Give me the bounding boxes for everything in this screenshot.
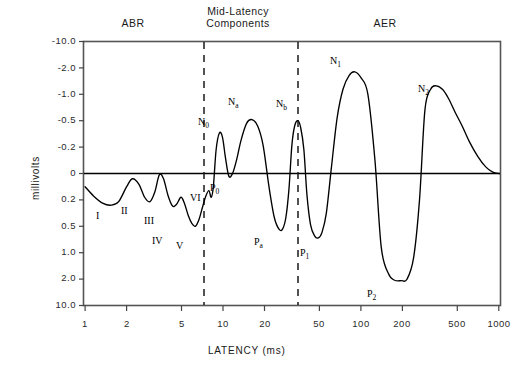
x-tick-label: 5 [162, 318, 202, 329]
y-tick-label: -0.2 [38, 141, 76, 152]
peak-label-I-text: I [96, 210, 99, 221]
peak-label-II: II [121, 205, 128, 216]
y-tick-label: 0 [38, 167, 76, 178]
plot-canvas [0, 0, 529, 371]
peak-label-P1: P1 [300, 247, 309, 261]
peak-label-P2-sub: 2 [373, 293, 377, 302]
y-tick-label: 10.0 [38, 299, 76, 310]
peak-label-Nb: Nb [276, 98, 287, 112]
y-tick-label: 0.2 [38, 193, 76, 204]
y-tick-label: 2.0 [38, 272, 76, 283]
x-tick-label: 50 [299, 318, 339, 329]
peak-label-P0: P0 [210, 182, 219, 196]
x-tick-label: 500 [437, 318, 477, 329]
peak-label-Na-sub: a [235, 101, 238, 110]
peak-label-V: V [176, 240, 183, 251]
y-tick-label: -1.0 [38, 88, 76, 99]
peak-label-IV-text: IV [152, 235, 163, 246]
peak-label-III-text: III [144, 215, 154, 226]
x-tick-label: 200 [382, 318, 422, 329]
peak-label-N1: N1 [330, 55, 341, 69]
peak-label-V-text: V [176, 240, 183, 251]
x-tick-marks [85, 306, 499, 312]
peak-label-VI-text: VI [190, 192, 201, 203]
peak-label-Pa-sub: a [260, 241, 263, 250]
x-tick-label: 1 [65, 318, 105, 329]
x-tick-label: 2 [107, 318, 147, 329]
evoked-potential-waveform [85, 72, 499, 282]
x-tick-label: 100 [341, 318, 381, 329]
peak-label-Na: Na [228, 96, 239, 110]
peak-label-Nb-sub: b [283, 103, 287, 112]
peak-label-P1-sub: 1 [306, 252, 310, 261]
peak-label-N2: N2 [418, 83, 429, 97]
peak-label-N0: N0 [198, 116, 209, 130]
peak-label-II-text: II [121, 205, 128, 216]
peak-label-Pa: Pa [254, 236, 263, 250]
peak-label-N2-sub: 2 [425, 88, 429, 97]
x-tick-label: 20 [245, 318, 285, 329]
y-tick-label: 1.0 [38, 246, 76, 257]
peak-label-N1-sub: 1 [337, 60, 341, 69]
y-tick-label: -0.5 [38, 114, 76, 125]
y-tick-label: -2.0 [38, 62, 76, 73]
x-tick-label: 10 [203, 318, 243, 329]
peak-label-N0-sub: 0 [205, 121, 209, 130]
peak-label-III: III [144, 215, 154, 226]
x-tick-label: 1000 [479, 318, 519, 329]
figure-root: ABR Mid-Latency Components AER millivolt… [0, 0, 529, 371]
peak-label-IV: IV [152, 235, 163, 246]
y-tick-label: 0.5 [38, 220, 76, 231]
y-tick-label: -10.0 [38, 35, 76, 46]
peak-label-P2: P2 [367, 288, 376, 302]
peak-label-I: I [96, 210, 99, 221]
peak-label-VI: VI [190, 192, 201, 203]
peak-label-P0-sub: 0 [216, 187, 220, 196]
